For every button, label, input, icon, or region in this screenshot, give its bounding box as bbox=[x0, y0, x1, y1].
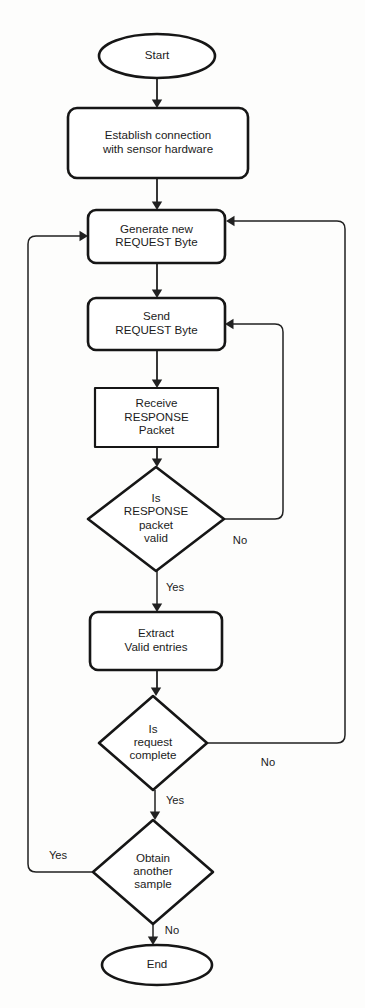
connector-another-yes-to-generate bbox=[28, 231, 93, 872]
decision-obtain-another-sample-label: Obtainanothersample bbox=[133, 851, 172, 890]
connector-complete-no-to-generate-line bbox=[207, 221, 345, 743]
connector-establish-to-generate bbox=[152, 178, 162, 210]
end-terminator-label: End bbox=[147, 957, 168, 970]
connector-complete-yes-to-another bbox=[150, 790, 160, 820]
connector-valid-no-to-send-label: No bbox=[233, 534, 247, 546]
connector-valid-no-to-send-line bbox=[224, 324, 283, 519]
connector-another-no-to-end-label: No bbox=[165, 924, 179, 936]
arrowhead bbox=[226, 216, 235, 226]
connector-valid-yes-to-extract-label: Yes bbox=[166, 581, 185, 593]
connector-receive-to-valid bbox=[152, 447, 162, 467]
connector-another-yes-to-generate-label: Yes bbox=[49, 849, 68, 861]
connector-valid-yes-to-extract bbox=[152, 571, 162, 612]
arrowhead bbox=[152, 459, 162, 468]
arrowhead bbox=[150, 812, 160, 821]
flowchart-canvas: StartEstablish connectionwith sensor har… bbox=[0, 0, 365, 1008]
arrowhead bbox=[151, 688, 161, 697]
arrowhead bbox=[152, 380, 162, 389]
flowchart-svg: StartEstablish connectionwith sensor har… bbox=[0, 0, 365, 1008]
connector-another-no-to-end bbox=[148, 924, 158, 945]
nodes-layer: StartEstablish connectionwith sensor har… bbox=[68, 34, 248, 985]
connector-start-to-establish bbox=[152, 78, 162, 108]
connector-complete-no-to-generate-label: No bbox=[261, 756, 275, 768]
process-generate-request-byte-label: Generate newREQUEST Byte bbox=[115, 222, 197, 248]
connector-extract-to-complete bbox=[151, 670, 161, 696]
connector-complete-yes-to-another-label: Yes bbox=[166, 794, 185, 806]
connector-valid-no-to-send bbox=[224, 319, 283, 519]
connector-complete-no-to-generate bbox=[207, 216, 345, 743]
connector-generate-to-send bbox=[152, 263, 162, 298]
connector-another-yes-to-generate-line bbox=[28, 236, 93, 872]
start-terminator-label: Start bbox=[145, 48, 170, 61]
process-establish-connection-label: Establish connectionwith sensor hardware bbox=[102, 128, 213, 154]
connector-send-to-receive bbox=[152, 350, 162, 388]
